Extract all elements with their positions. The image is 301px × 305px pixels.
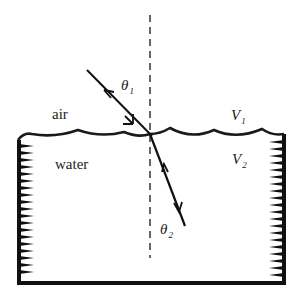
- theta2-subscript: 2: [168, 230, 173, 240]
- v1-subscript: 1: [241, 116, 246, 126]
- v2-symbol: V: [232, 151, 241, 167]
- water-label: water: [55, 157, 88, 172]
- air-label: air: [52, 107, 68, 122]
- v2-subscript: 2: [242, 160, 247, 170]
- theta2-symbol: θ: [160, 221, 167, 237]
- refraction-diagram: [0, 0, 301, 305]
- theta2-label: θ2: [160, 222, 173, 240]
- v1-label: V1: [231, 108, 246, 126]
- v2-label: V2: [232, 152, 247, 170]
- incident-ray: [87, 70, 152, 136]
- right-wall-hatching: [269, 140, 284, 277]
- left-wall-hatching: [19, 144, 34, 274]
- theta1-label: θ1: [121, 78, 134, 96]
- theta1-symbol: θ: [121, 77, 128, 93]
- theta1-subscript: 1: [129, 86, 134, 96]
- v1-symbol: V: [231, 107, 240, 123]
